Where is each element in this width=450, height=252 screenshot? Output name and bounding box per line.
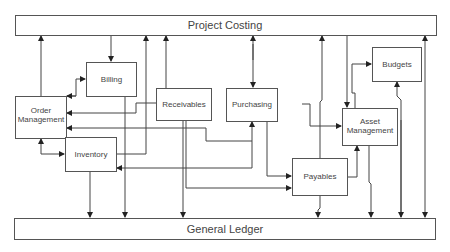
asset-management-box: Asset Management bbox=[343, 109, 398, 146]
arrow-asset-to-gl bbox=[369, 145, 371, 217]
receivables-box: Receivables bbox=[157, 89, 212, 121]
arrow-order-to-inventory bbox=[41, 150, 64, 154]
arrow-payables-to-gl bbox=[318, 195, 320, 217]
arrow-to-budgets bbox=[397, 82, 401, 217]
arrow-purchasing-to-payables bbox=[267, 121, 291, 176]
budgets-label: Budgets bbox=[382, 60, 411, 69]
billing-box: Billing bbox=[87, 63, 137, 97]
receivables-label: Receivables bbox=[162, 100, 206, 109]
inventory-label: Inventory bbox=[75, 150, 108, 159]
arrow-payables-to-asset bbox=[347, 146, 357, 177]
arrow-receivables-to-payables bbox=[186, 120, 291, 188]
budgets-box: Budgets bbox=[373, 48, 422, 82]
payables-box: Payables bbox=[293, 159, 348, 196]
module-diagram: Project Costing General Ledger Billing O… bbox=[0, 0, 450, 252]
order-management-box: Order Management bbox=[16, 97, 67, 139]
purchasing-box: Purchasing bbox=[227, 89, 278, 122]
purchasing-label: Purchasing bbox=[232, 100, 272, 109]
arrow-purchasing-to-asset bbox=[302, 104, 341, 126]
project-costing-label: Project Costing bbox=[188, 19, 263, 31]
billing-label: Billing bbox=[101, 75, 122, 84]
order-management-label-2: Management bbox=[18, 115, 65, 124]
project-costing-box: Project Costing bbox=[16, 16, 437, 36]
asset-management-label-1: Asset bbox=[360, 117, 381, 126]
arrow-order-to-billing bbox=[67, 79, 85, 96]
arrow-receivables-to-order bbox=[67, 103, 156, 113]
general-ledger-label: General Ledger bbox=[187, 223, 264, 235]
inventory-box: Inventory bbox=[66, 138, 117, 172]
arrow-payables-to-projectcosting bbox=[320, 36, 322, 158]
general-ledger-box: General Ledger bbox=[15, 219, 436, 240]
arrow-asset-to-budgets bbox=[352, 64, 371, 108]
order-management-label-1: Order bbox=[31, 106, 52, 115]
asset-management-label-2: Management bbox=[347, 126, 394, 135]
arrow-to-purchasing bbox=[206, 122, 252, 141]
payables-label: Payables bbox=[304, 172, 337, 181]
